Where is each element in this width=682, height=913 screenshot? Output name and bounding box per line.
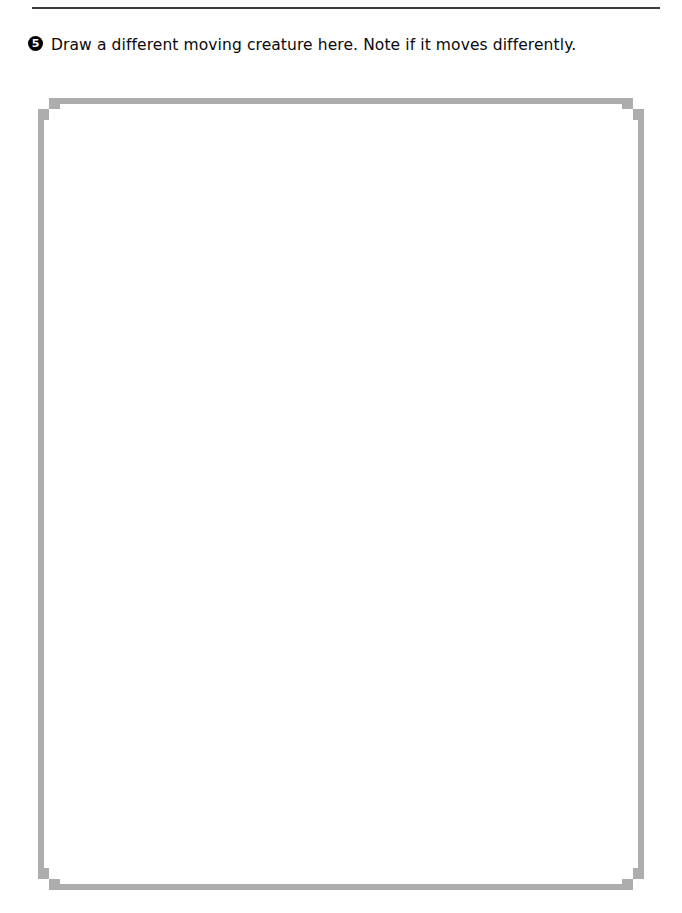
instruction-text: Draw a different moving creature here. N…: [51, 33, 626, 58]
drawing-surface[interactable]: [44, 104, 638, 884]
box-corner-top-right-step-inner: [633, 109, 644, 120]
numbered-bullet-icon: 5: [28, 36, 43, 51]
worksheet-page: 5 Draw a different moving creature here.…: [0, 0, 682, 913]
drawing-box[interactable]: [38, 98, 644, 890]
box-corner-bottom-left-step-inner: [38, 868, 49, 879]
instruction-block: 5 Draw a different moving creature here.…: [28, 33, 628, 58]
box-edge-bottom: [60, 884, 622, 890]
box-corner-top-left-step-inner: [38, 109, 49, 120]
top-horizontal-rule: [32, 7, 660, 9]
box-corner-bottom-left-step-outer: [49, 879, 60, 890]
box-corner-bottom-right-step-outer: [622, 879, 633, 890]
box-edge-top: [60, 98, 622, 104]
box-edge-right: [638, 120, 644, 868]
box-edge-left: [38, 120, 44, 868]
box-corner-bottom-right-step-inner: [633, 868, 644, 879]
box-corner-top-right-step-outer: [622, 98, 633, 109]
box-corner-top-left-step-outer: [49, 98, 60, 109]
